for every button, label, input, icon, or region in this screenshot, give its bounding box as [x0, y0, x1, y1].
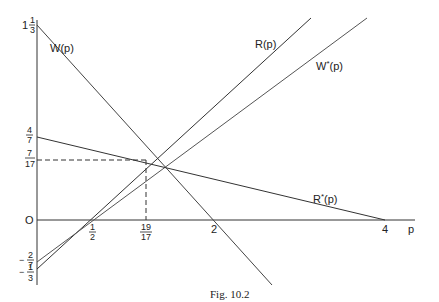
- y-tick-4-7: 4 7: [26, 125, 33, 145]
- svg-text:2: 2: [90, 232, 95, 242]
- label-W: W(p): [50, 42, 74, 54]
- svg-text:7: 7: [27, 148, 32, 158]
- x-axis-label: p: [408, 223, 414, 235]
- chart-figure: W(p) R(p) W*(p) R*(p) 1 1 3 4 7 7 17 O −…: [0, 0, 439, 302]
- x-tick-2: 2: [211, 223, 217, 235]
- y-tick-4-3: 1 1 3: [22, 15, 35, 35]
- svg-text:17: 17: [25, 159, 35, 169]
- x-tick-1-2: 1 2: [89, 222, 96, 242]
- line-R-star: [37, 137, 385, 220]
- svg-text:1: 1: [30, 15, 35, 25]
- svg-text:1: 1: [22, 19, 28, 31]
- y-tick-minus-1-3: − 1 3: [19, 262, 34, 283]
- line-W: [37, 25, 272, 285]
- svg-text:2: 2: [28, 250, 33, 260]
- svg-text:17: 17: [141, 232, 151, 242]
- figure-caption: Fig. 10.2: [210, 288, 249, 300]
- x-tick-4: 4: [382, 223, 388, 235]
- x-tick-19-17: 19 17: [140, 222, 152, 242]
- label-W-star: W*(p): [316, 59, 343, 72]
- label-R-star: R*(p): [313, 192, 338, 205]
- line-W-star: [37, 18, 367, 262]
- svg-text:1: 1: [90, 222, 95, 232]
- svg-text:19: 19: [141, 222, 151, 232]
- y-tick-origin: O: [25, 214, 34, 226]
- svg-text:4: 4: [27, 125, 32, 135]
- label-R: R(p): [255, 38, 276, 50]
- svg-text:3: 3: [28, 273, 33, 283]
- svg-text:−: −: [19, 255, 24, 265]
- svg-text:1: 1: [28, 262, 33, 272]
- svg-text:−: −: [19, 267, 24, 277]
- y-tick-7-17: 7 17: [25, 148, 35, 169]
- svg-text:7: 7: [27, 135, 32, 145]
- svg-text:3: 3: [30, 25, 35, 35]
